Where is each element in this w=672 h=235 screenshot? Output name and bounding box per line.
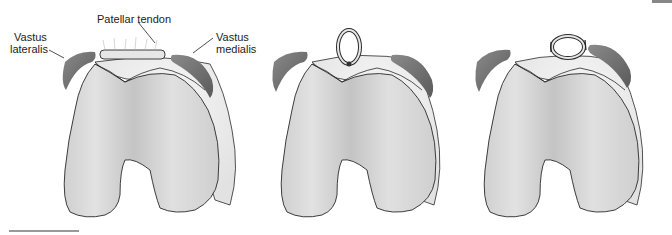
tendon-fibers bbox=[103, 37, 157, 50]
leader-patellar-tendon bbox=[138, 22, 155, 43]
scale-bar bbox=[9, 230, 79, 232]
label-vastus-medialis-line2: medialis bbox=[216, 43, 256, 55]
patellar-tendon-stump bbox=[100, 50, 165, 59]
suture-knot bbox=[347, 62, 352, 67]
panel-3 bbox=[475, 36, 642, 217]
label-vastus-lateralis-line2: lateralis bbox=[10, 43, 48, 55]
leader-vastus-medialis bbox=[193, 38, 213, 53]
label-vastus-medialis-line1: Vastus bbox=[216, 31, 249, 43]
label-patellar-tendon: Patellar tendon bbox=[97, 13, 171, 25]
label-vastus-lateralis-line1: Vastus bbox=[14, 31, 47, 43]
panel-2 bbox=[272, 30, 439, 217]
knee-illustration bbox=[0, 0, 672, 235]
corner-mark bbox=[652, 0, 672, 3]
panel-1 bbox=[49, 22, 236, 217]
leader-vastus-lateralis bbox=[49, 50, 64, 58]
figure-stage: Patellar tendon Vastus lateralis Vastus … bbox=[0, 0, 672, 235]
